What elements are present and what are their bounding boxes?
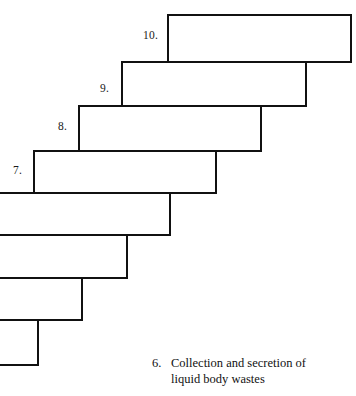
staircase-diagram [0,0,356,396]
step-8 [79,106,261,151]
caption-text-line-1: Collection and secretion of [171,355,341,371]
diagram-page: 10. 9. 8. 7. 6.Collection and secretion … [0,0,356,396]
steps-group [0,15,351,365]
step-3 [0,320,38,365]
step-6 [0,193,170,235]
caption-text-line-2: liquid body wastes [171,371,341,387]
step-label-8: 8. [58,120,67,132]
step-10 [168,15,351,62]
caption-block: 6.Collection and secretion of liquid bod… [152,355,352,387]
step-label-10: 10. [143,29,158,41]
step-7 [34,151,216,193]
step-label-9: 9. [100,82,109,94]
step-4 [0,278,82,320]
step-label-7: 7. [13,164,22,176]
step-9 [122,62,306,106]
caption-number: 6. [152,355,171,371]
caption-line-2: liquid body wastes [152,371,352,387]
caption-line-1: 6.Collection and secretion of [152,355,352,371]
step-5 [0,235,127,278]
